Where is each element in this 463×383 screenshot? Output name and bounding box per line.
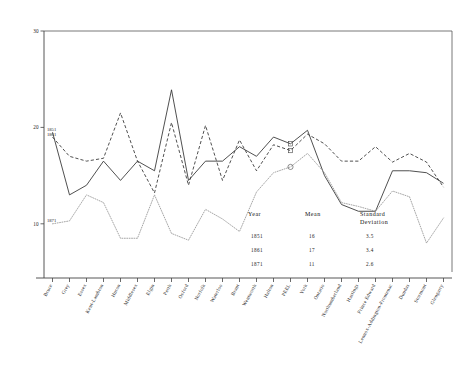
x-category-label: Halton — [263, 283, 275, 299]
chart-container: 102030 185118611871 BruceGreyEssexKent-L… — [0, 0, 463, 383]
x-category-label: Middlesex — [123, 283, 138, 306]
y-tick-label: 10 — [33, 221, 39, 227]
stats-cell-sd: 2.6 — [366, 261, 374, 267]
series-tag-1871: 1871 — [47, 218, 57, 223]
x-category-label: Hastings — [346, 283, 360, 303]
stats-header-mean: Mean — [305, 211, 321, 217]
stats-cell-mean: 17 — [309, 247, 315, 253]
x-category-label: Elgin — [145, 283, 155, 296]
x-category-label: Prince Edward — [357, 283, 377, 315]
series-tag-1861: 1861 — [47, 132, 57, 137]
stats-cell-mean: 11 — [309, 261, 315, 267]
y-tick-label: 20 — [33, 124, 39, 130]
y-tick-label: 30 — [33, 28, 39, 34]
x-category-label: Kent-Lambton — [85, 283, 105, 314]
x-category-label: Bruce — [43, 283, 54, 297]
stats-table: YearMeanStandardDeviation1851163.5186117… — [248, 211, 388, 267]
x-category-label: Oxford — [177, 283, 189, 300]
x-category-label: Waterloo — [209, 283, 223, 303]
x-category-label: Wentworth — [242, 283, 258, 307]
plot-frame — [36, 31, 452, 278]
stats-header-sd: Standard — [360, 211, 385, 217]
marker-circle-1871 — [288, 164, 293, 169]
x-category-label: Essex — [77, 283, 88, 297]
x-axis-category-labels: BruceGreyEssexKent-LambtonHuronMiddlesex… — [43, 283, 445, 345]
stats-cell-year: 1871 — [251, 261, 263, 267]
x-category-label: Ontario — [313, 283, 326, 301]
x-category-label: Brant — [230, 283, 240, 297]
x-category-label: Huron — [110, 283, 121, 298]
x-category-label: Dundas — [398, 283, 410, 300]
x-category-label: Perth — [162, 283, 172, 296]
x-category-label: Lennox-Addington-Frontenac — [358, 283, 394, 345]
y-axis-ticks: 102030 — [33, 28, 44, 227]
x-category-label: Northumberland — [321, 283, 343, 318]
stats-cell-year: 1861 — [251, 247, 263, 253]
stats-header-year: Year — [248, 211, 261, 217]
stats-header-sd-line2: Deviation — [360, 219, 388, 225]
data-point-markers — [288, 142, 293, 170]
stats-cell-sd: 3.5 — [366, 233, 374, 239]
x-category-label: York — [299, 283, 309, 295]
x-category-label: PEEL — [281, 283, 291, 297]
stats-cell-year: 1851 — [251, 233, 263, 239]
series-line-1861 — [53, 113, 444, 193]
series-line-1871 — [53, 153, 444, 243]
x-category-label: Glengarry — [429, 283, 444, 305]
line-chart-figure: 102030 185118611871 BruceGreyEssexKent-L… — [0, 0, 463, 383]
series-line-1851 — [53, 90, 444, 211]
stats-cell-mean: 16 — [309, 233, 315, 239]
series-endpoint-labels: 185118611871 — [47, 127, 57, 224]
x-category-label: Grey — [61, 283, 71, 295]
x-category-label: Stormont — [413, 283, 427, 304]
x-category-label: Norfolk — [194, 283, 207, 301]
x-axis-ticks — [53, 278, 444, 282]
stats-cell-sd: 3.4 — [366, 247, 374, 253]
